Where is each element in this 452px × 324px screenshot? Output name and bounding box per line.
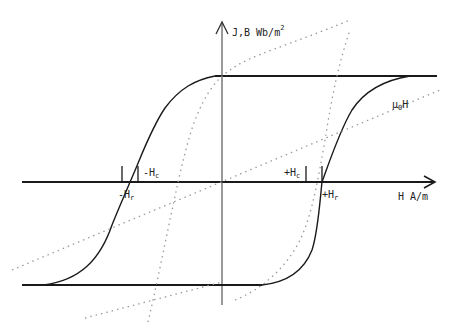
y-axis-label: J,B Wb/m2 <box>232 24 284 38</box>
pos-hc-label: +Hc <box>284 167 300 180</box>
virgin-curve-upper-dotted <box>148 20 350 322</box>
x-axis-label: H A/m <box>398 191 428 202</box>
pos-hr-label: +Hr <box>322 189 338 202</box>
neg-hr-label: -Hr <box>118 189 134 202</box>
mu0h-label: μ0H <box>392 99 408 112</box>
descending-branch-curve <box>44 76 215 285</box>
neg-hc-label: -Hc <box>143 167 159 180</box>
ascending-branch-curve <box>262 76 410 285</box>
hysteresis-diagram: J,B Wb/m2 H A/m -Hc -Hr +Hc +Hr μ0H <box>0 0 452 324</box>
virgin-curve-lower-dotted <box>235 30 350 300</box>
mu0h-dotted-line <box>12 90 440 270</box>
